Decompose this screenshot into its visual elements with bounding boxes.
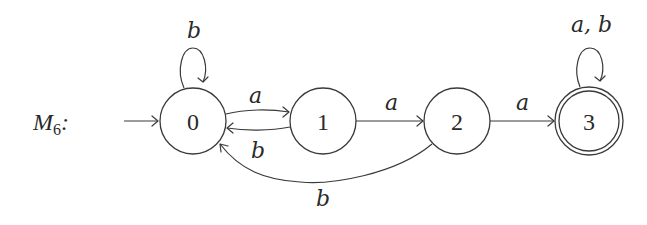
label-2-0: b [316,186,330,211]
label-0-1: a [249,83,262,108]
state-3-label: 3 [583,109,595,135]
state-0: 0 [160,88,226,154]
machine-title: M6: [32,109,69,138]
state-1: 1 [290,88,356,154]
transition-3-3 [577,48,605,87]
label-1-2: a [385,90,398,115]
start-arrow [124,116,158,126]
label-1-0: b [251,138,265,163]
label-3-3: a, b [571,12,612,37]
transition-2-3 [490,116,554,126]
transition-1-2 [356,116,423,126]
transition-0-0 [180,48,208,88]
transition-1-0 [227,123,290,133]
state-2: 2 [424,88,490,154]
state-1-label: 1 [317,109,329,135]
label-2-3: a [516,90,529,115]
state-2-label: 2 [451,109,463,135]
label-0-0: b [187,18,201,43]
dfa-diagram: M6: b a b a a b a, b [0,0,647,225]
state-0-label: 0 [187,109,199,135]
state-3-accepting: 3 [555,87,623,155]
transition-0-1 [226,107,289,117]
